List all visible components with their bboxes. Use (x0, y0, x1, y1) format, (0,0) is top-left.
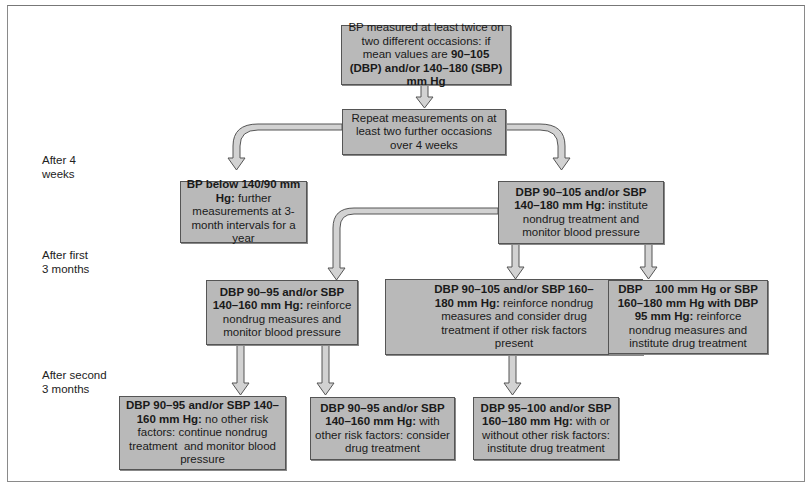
box-text-plain: further measurements at 3-month interval… (191, 192, 295, 245)
box-text: DBP 90–95 and/or SBP 140–160 mm Hg: rein… (211, 286, 353, 340)
arrow-curve-left-icon (328, 208, 498, 280)
box-text: DBP 90–95 and/or SBP 140–160 mm Hg: no o… (124, 399, 281, 467)
arrow-down-icon (507, 244, 524, 279)
box-initial-measurement: BP measured at least twice on two differ… (341, 25, 511, 85)
box-text: BP below 140/90 mm Hg: further measureme… (185, 178, 302, 246)
box-severe-institute-drug: DBP 100 mm Hg or SBP 160–180 mm Hg with … (608, 280, 768, 354)
box-text: DBP 90–105 and/or SBP 140–180 mm Hg: ins… (503, 186, 659, 240)
box-repeat-measurements: Repeat measurements on at least two furt… (342, 109, 506, 155)
box-text: DBP 95–100 and/or SBP 160–180 mm Hg: wit… (478, 402, 614, 456)
box-text-plain: Repeat measurements on at least two furt… (347, 112, 501, 153)
arrow-curve-right-icon (506, 124, 570, 170)
box-mild-no-risk: DBP 90–95 and/or SBP 140–160 mm Hg: no o… (119, 396, 286, 470)
box-text: DBP 90–105 and/or SBP 160–180 mm Hg: rei… (428, 283, 600, 351)
box-mild-with-risk: DBP 90–95 and/or SBP 140–160 mm Hg: with… (310, 397, 455, 460)
box-bp-below: BP below 140/90 mm Hg: further measureme… (180, 181, 307, 243)
box-text: DBP 90–95 and/or SBP 140–160 mm Hg: with… (315, 402, 450, 456)
box-moderate-consider: DBP 90–105 and/or SBP 160–180 mm Hg: rei… (385, 279, 643, 355)
arrow-down-icon (640, 244, 657, 279)
arrow-down-icon (232, 345, 249, 395)
box-text: DBP 100 mm Hg or SBP 160–180 mm Hg with … (613, 283, 763, 351)
arrow-curve-left-icon (228, 124, 342, 170)
box-text: BP measured at least twice on two differ… (346, 21, 506, 89)
arrow-down-icon (504, 355, 521, 395)
box-mild-reinforce: DBP 90–95 and/or SBP 140–160 mm Hg: rein… (206, 280, 358, 345)
box-institute-nondrug: DBP 90–105 and/or SBP 140–180 mm Hg: ins… (498, 181, 664, 244)
arrow-down-icon (317, 345, 334, 395)
box-moderate-institute-drug: DBP 95–100 and/or SBP 160–180 mm Hg: wit… (473, 397, 619, 460)
